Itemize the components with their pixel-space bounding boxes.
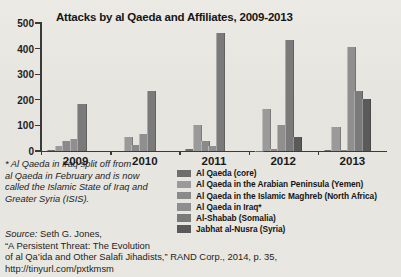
chart-legend: Al Qaeda (core)Al Qaeda in the Arabian P… bbox=[177, 168, 399, 235]
x-tick-2013 bbox=[318, 151, 319, 155]
source-line-2: of al Qa’ida and Other Salafi Jihadists,… bbox=[5, 251, 335, 263]
y-tick-label-200: 200 bbox=[0, 94, 34, 105]
x-tick-2011 bbox=[179, 151, 180, 155]
legend-label-1: Al Qaeda in the Arabian Peninsula (Yemen… bbox=[196, 179, 363, 189]
footnote-line-1: al Qaeda in February and is now bbox=[5, 171, 157, 183]
legend-item-2: Al Qaeda in the Islamic Maghreb (North A… bbox=[177, 190, 399, 201]
footnote-text: * Al Qaeda in Iraq split off fromal Qaed… bbox=[5, 159, 157, 205]
legend-swatch-icon-4 bbox=[177, 214, 191, 222]
chart-title: Attacks by al Qaeda and Affiliates, 2009… bbox=[56, 11, 396, 23]
y-tick-label-400: 400 bbox=[0, 43, 34, 54]
y-tick-400 bbox=[35, 48, 41, 49]
legend-swatch-icon-0 bbox=[177, 170, 191, 178]
y-tick-label-100: 100 bbox=[0, 120, 34, 131]
source-citation: Source: Seth G. Jones,“A Persistent Thre… bbox=[5, 228, 335, 274]
legend-label-2: Al Qaeda in the Islamic Maghreb (North A… bbox=[196, 191, 377, 201]
footnote-line-3: Greater Syria (ISIS). bbox=[5, 194, 157, 206]
y-tick-label-0: 0 bbox=[0, 146, 34, 157]
legend-label-3: Al Qaeda in Iraq* bbox=[196, 202, 262, 212]
source-url-link[interactable]: http://tinyurl.com/pxtkmsm bbox=[5, 263, 335, 275]
legend-swatch-icon-1 bbox=[177, 181, 191, 189]
source-label: Source: bbox=[5, 228, 37, 239]
legend-item-1: Al Qaeda in the Arabian Peninsula (Yemen… bbox=[177, 179, 399, 190]
y-tick-label-300: 300 bbox=[0, 69, 34, 80]
bar-2012-series-1 bbox=[262, 109, 271, 151]
legend-swatch-icon-2 bbox=[177, 192, 191, 200]
source-line-0: Source: Seth G. Jones, bbox=[5, 228, 335, 240]
y-tick-100 bbox=[35, 125, 41, 126]
y-tick-label-500: 500 bbox=[0, 18, 34, 29]
x-tick-2012 bbox=[249, 151, 250, 155]
footnote-line-2: called the Islamic State of Iraq and bbox=[5, 182, 157, 194]
chart-region: Attacks by al Qaeda and Affiliates, 2009… bbox=[0, 0, 401, 160]
legend-label-0: Al Qaeda (core) bbox=[196, 168, 257, 178]
bar-2013-series-5 bbox=[362, 99, 371, 151]
legend-item-3: Al Qaeda in Iraq* bbox=[177, 202, 399, 213]
source-line-1: “A Persistent Threat: The Evolution bbox=[5, 240, 335, 252]
y-tick-200 bbox=[35, 99, 41, 100]
bar-2010-series-4 bbox=[147, 91, 156, 151]
y-tick-300 bbox=[35, 74, 41, 75]
x-tick-label-2012: 2012 bbox=[270, 155, 296, 167]
plot-area: 0100200300400500 20092010201120122013 bbox=[41, 23, 387, 151]
footnote-line-0: * Al Qaeda in Iraq split off from bbox=[5, 159, 157, 171]
figure-container: Attacks by al Qaeda and Affiliates, 2009… bbox=[0, 0, 401, 277]
bar-2012-series-4 bbox=[285, 40, 294, 151]
source-line-0-text: Seth G. Jones, bbox=[37, 228, 102, 239]
x-tick-2009 bbox=[41, 151, 42, 155]
bar-2013-series-1 bbox=[331, 127, 340, 151]
bar-2011-series-4 bbox=[216, 33, 225, 151]
bar-2012-series-5 bbox=[293, 137, 302, 151]
bar-2009-series-4 bbox=[77, 104, 86, 151]
x-tick-label-2013: 2013 bbox=[340, 155, 366, 167]
legend-item-4: Al-Shabab (Somalia) bbox=[177, 213, 399, 224]
x-tick-label-2011: 2011 bbox=[202, 155, 227, 167]
legend-label-4: Al-Shabab (Somalia) bbox=[196, 213, 276, 223]
x-tick-2010 bbox=[110, 151, 111, 155]
legend-item-0: Al Qaeda (core) bbox=[177, 168, 399, 179]
y-tick-500 bbox=[35, 22, 41, 23]
legend-swatch-icon-3 bbox=[177, 203, 191, 211]
